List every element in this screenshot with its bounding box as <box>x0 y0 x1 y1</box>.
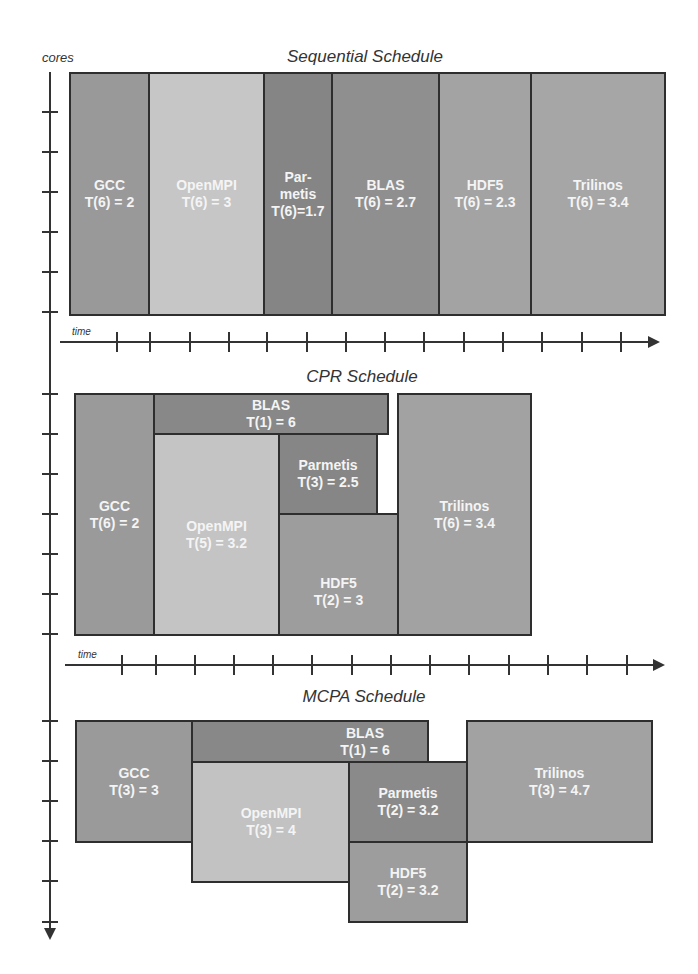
cores-tick <box>42 473 58 475</box>
cores-tick <box>42 271 58 273</box>
time-axis <box>65 664 655 666</box>
sequential-schedule-title: Sequential Schedule <box>287 47 443 67</box>
cpr-block-parmetis: Parmetis T(3) = 2.5 <box>278 433 378 515</box>
mcpa-block-trilinos: Trilinos T(3) = 4.7 <box>466 720 653 843</box>
time-tick <box>155 655 157 675</box>
cores-tick <box>42 231 58 233</box>
block-time: T(5) = 3.2 <box>186 535 247 552</box>
cores-tick <box>42 760 58 762</box>
cores-tick <box>42 191 58 193</box>
block-name: Par- <box>284 169 311 186</box>
block-time: T(6) = 2 <box>85 194 134 211</box>
block-time: T(1) = 6 <box>246 414 295 431</box>
cores-axis <box>49 72 51 932</box>
time-tick <box>194 655 196 675</box>
mcpa-schedule-title: MCPA Schedule <box>303 687 426 707</box>
cores-tick <box>42 393 58 395</box>
mcpa-block-hdf5: HDF5 T(2) = 3.2 <box>348 841 468 923</box>
seq-block-trilinos: Trilinos T(6) = 3.4 <box>532 74 664 314</box>
block-name-2: metis <box>280 186 317 203</box>
time-tick <box>306 332 308 352</box>
mcpa-block-parmetis: Parmetis T(2) = 3.2 <box>348 761 468 843</box>
time-tick <box>626 655 628 675</box>
cores-tick <box>42 433 58 435</box>
block-time: T(6) = 2.7 <box>355 194 416 211</box>
block-name: GCC <box>94 177 125 194</box>
cores-tick <box>42 111 58 113</box>
time-tick <box>149 332 151 352</box>
block-time: T(6) = 3 <box>182 194 231 211</box>
time-tick <box>423 332 425 352</box>
block-time: T(3) = 3 <box>109 782 158 799</box>
block-name: Parmetis <box>378 785 437 802</box>
time-tick <box>463 332 465 352</box>
seq-block-openmpi: OpenMPI T(6) = 3 <box>150 74 265 314</box>
time-tick <box>586 655 588 675</box>
cores-tick <box>42 311 58 313</box>
time-axis-label: time <box>72 326 91 337</box>
mcpa-block-openmpi: OpenMPI T(3) = 4 <box>191 761 351 883</box>
time-tick <box>189 332 191 352</box>
block-time: T(6) = 2 <box>90 515 139 532</box>
block-name: Parmetis <box>298 457 357 474</box>
time-axis-arrow-icon <box>648 336 660 348</box>
time-tick <box>345 332 347 352</box>
time-tick <box>272 655 274 675</box>
cores-tick <box>42 921 58 923</box>
block-time: T(6) = 3.4 <box>434 515 495 532</box>
time-tick <box>121 655 123 675</box>
mcpa-block-blas: BLAS T(1) = 6 <box>191 720 429 763</box>
block-name: HDF5 <box>390 865 427 882</box>
block-time: T(2) = 3.2 <box>377 882 438 899</box>
block-name: GCC <box>99 498 130 515</box>
time-axis-arrow-icon <box>653 659 665 671</box>
time-tick <box>620 332 622 352</box>
sequential-schedule: GCC T(6) = 2 OpenMPI T(6) = 3 Par- metis… <box>69 72 666 316</box>
block-time: T(2) = 3.2 <box>377 802 438 819</box>
cores-axis-label: cores <box>42 50 74 65</box>
cores-tick <box>42 513 58 515</box>
time-tick <box>581 332 583 352</box>
block-time: T(3) = 4.7 <box>529 782 590 799</box>
cores-axis-arrow-icon <box>44 928 56 942</box>
block-time: T(3) = 2.5 <box>297 474 358 491</box>
cpr-block-openmpi: OpenMPI T(5) = 3.2 <box>153 433 280 636</box>
block-time: T(1) = 6 <box>340 742 389 759</box>
block-name: Trilinos <box>573 177 623 194</box>
block-name: Trilinos <box>535 765 585 782</box>
time-tick <box>547 655 549 675</box>
cores-tick <box>42 880 58 882</box>
time-tick <box>429 655 431 675</box>
time-tick <box>351 655 353 675</box>
block-name: Trilinos <box>440 498 490 515</box>
time-tick <box>502 332 504 352</box>
time-tick <box>390 655 392 675</box>
block-name: BLAS <box>366 177 404 194</box>
cores-tick <box>42 553 58 555</box>
block-name: OpenMPI <box>241 805 302 822</box>
block-time: T(3) = 4 <box>246 822 295 839</box>
cores-tick <box>42 840 58 842</box>
time-tick <box>541 332 543 352</box>
time-axis-label: time <box>78 649 97 660</box>
time-tick <box>468 655 470 675</box>
block-name: OpenMPI <box>186 518 247 535</box>
block-name: OpenMPI <box>176 177 237 194</box>
cpr-block-trilinos: Trilinos T(6) = 3.4 <box>397 393 532 636</box>
seq-block-hdf5: HDF5 T(6) = 2.3 <box>440 74 532 314</box>
time-tick <box>384 332 386 352</box>
time-tick <box>508 655 510 675</box>
time-tick <box>228 332 230 352</box>
time-tick <box>311 655 313 675</box>
block-name: BLAS <box>252 397 290 414</box>
block-name: HDF5 <box>467 177 504 194</box>
cpr-block-blas: BLAS T(1) = 6 <box>153 393 389 435</box>
block-name: BLAS <box>346 725 384 742</box>
mcpa-block-gcc: GCC T(3) = 3 <box>75 720 193 843</box>
cores-tick <box>42 151 58 153</box>
block-time: T(6)=1.7 <box>271 203 324 220</box>
cores-tick <box>42 593 58 595</box>
seq-block-blas: BLAS T(6) = 2.7 <box>333 74 440 314</box>
seq-block-gcc: GCC T(6) = 2 <box>71 74 150 314</box>
cpr-schedule-title: CPR Schedule <box>306 367 418 387</box>
